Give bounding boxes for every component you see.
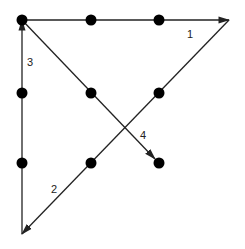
dot-7	[17, 158, 28, 169]
line-label-4: 4	[140, 129, 146, 141]
line-label-2: 2	[51, 183, 57, 195]
dot-2	[86, 15, 97, 26]
nine-dot-diagram: 1234	[0, 0, 245, 249]
dot-1	[17, 15, 28, 26]
dot-6	[154, 88, 165, 99]
diagram-svg: 1234	[0, 0, 245, 249]
dot-9	[154, 158, 165, 169]
line-label-1: 1	[187, 28, 193, 40]
dot-3	[154, 15, 165, 26]
dot-4	[17, 88, 28, 99]
dot-5	[86, 88, 97, 99]
dot-8	[86, 158, 97, 169]
path-lines	[22, 20, 229, 234]
line-label-3: 3	[27, 56, 33, 68]
